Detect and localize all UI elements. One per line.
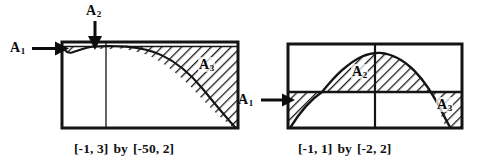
right-a2-label: A2	[351, 64, 368, 80]
right-a2-letter: A	[352, 64, 362, 79]
right-plot-graphic	[250, 0, 487, 140]
right-a2-subscript: 2	[363, 70, 368, 80]
left-a3-letter: A	[199, 57, 209, 72]
left-caption: [-1, 3]by[-50, 2]	[74, 141, 174, 157]
right-caption: [-1, 1]by[-2, 2]	[298, 141, 391, 157]
left-a1-letter: A	[10, 40, 20, 55]
left-caption-x-range: [-1, 3]	[74, 141, 108, 156]
left-a2-subscript: 2	[97, 9, 102, 19]
left-caption-y-range: [-50, 2]	[133, 141, 174, 156]
left-a2-letter: A	[86, 3, 96, 18]
right-a1-label: A1	[238, 92, 253, 108]
left-panel: A1 A2 A3 [-1, 3]by[-50, 2]	[0, 0, 250, 167]
left-caption-by: by	[108, 141, 132, 156]
right-a1-letter: A	[238, 92, 248, 107]
right-panel: A1 A2 A3 [-1, 1]by[-2, 2]	[250, 0, 487, 167]
right-a1-subscript: 1	[249, 98, 254, 108]
left-a2-label: A2	[86, 3, 101, 19]
left-a1-label: A1	[10, 40, 25, 56]
right-a3-subscript: 3	[448, 103, 453, 113]
left-a1-subscript: 1	[21, 46, 26, 56]
left-a3-label: A3	[198, 57, 215, 73]
right-caption-y-range: [-2, 2]	[357, 141, 391, 156]
figure-root: A1 A2 A3 [-1, 3]by[-50, 2]	[0, 0, 487, 167]
right-caption-x-range: [-1, 1]	[298, 141, 332, 156]
right-a3-label: A3	[436, 97, 453, 113]
right-caption-by: by	[332, 141, 356, 156]
right-a3-letter: A	[437, 97, 447, 112]
left-a3-subscript: 3	[210, 63, 215, 73]
